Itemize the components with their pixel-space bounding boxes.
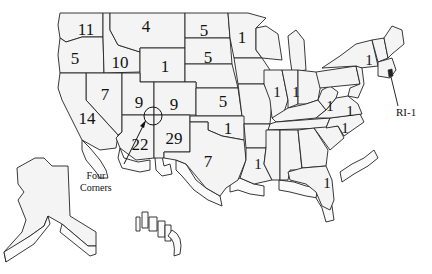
label-wy: 1 bbox=[161, 58, 170, 75]
ri-label: RI-1 bbox=[396, 106, 416, 119]
label-ut: 9 bbox=[135, 94, 144, 111]
label-ny: 1 bbox=[365, 53, 373, 68]
label-ok: 1 bbox=[224, 120, 233, 137]
label-nm: 29 bbox=[166, 130, 183, 147]
label-wa: 11 bbox=[78, 21, 94, 38]
hawaii bbox=[136, 212, 181, 256]
four-corners-line1: Four bbox=[80, 170, 112, 182]
label-ks: 5 bbox=[219, 93, 228, 110]
label-fl: 1 bbox=[323, 176, 331, 191]
label-va: 1 bbox=[346, 104, 354, 119]
label-or: 5 bbox=[71, 50, 80, 67]
label-in: 1 bbox=[292, 85, 300, 100]
label-la: 1 bbox=[254, 157, 262, 172]
label-il: 1 bbox=[273, 85, 281, 100]
label-mt: 4 bbox=[142, 18, 151, 35]
label-tx: 7 bbox=[204, 153, 213, 170]
rhode-island-marker bbox=[388, 69, 393, 77]
label-id: 10 bbox=[112, 54, 129, 71]
label-nc: 1 bbox=[341, 121, 349, 136]
us-map-figure: 11 5 10 4 1 5 5 1 7 9 9 5 14 22 29 1 7 1… bbox=[0, 0, 432, 274]
label-az: 22 bbox=[132, 136, 149, 153]
four-corners-line2: Corners bbox=[80, 182, 112, 194]
label-ca: 14 bbox=[79, 110, 96, 127]
label-co: 9 bbox=[170, 96, 179, 113]
label-sd: 5 bbox=[204, 49, 213, 66]
label-nv: 7 bbox=[101, 86, 110, 103]
four-corners-label: Four Corners bbox=[80, 170, 112, 193]
label-wv: 1 bbox=[326, 99, 334, 114]
ri-leader-line bbox=[391, 77, 398, 106]
us-map-svg bbox=[0, 0, 432, 274]
label-mn: 1 bbox=[238, 29, 247, 46]
label-nd: 5 bbox=[200, 22, 209, 39]
